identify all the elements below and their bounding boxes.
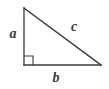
- right-triangle-figure: a c b: [0, 0, 109, 89]
- side-label-b: b: [49, 71, 63, 85]
- side-label-a: a: [6, 27, 20, 41]
- right-angle-square-icon: [24, 56, 33, 65]
- hypotenuse-c-line: [24, 8, 101, 65]
- side-label-c: c: [67, 20, 81, 34]
